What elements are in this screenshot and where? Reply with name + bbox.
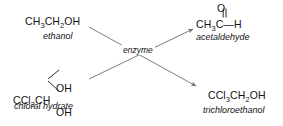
subscript: 3 [40,21,44,30]
bond-dash: — [223,18,234,30]
product-acetaldehyde-structure: O CH3C—H [196,2,254,34]
catalyst-label: enzyme [121,45,155,55]
product-trichloroethanol-formula: CCl3CH2OH [208,89,266,101]
acetaldehyde-carbonyl-oxygen: O [217,2,225,14]
acetaldehyde-base-formula: CH3C—H [196,18,242,30]
subscript: 3 [226,95,230,104]
product-acetaldehyde-name: acetaldehyde [196,32,250,43]
acetaldehyde-structure-group: O CH3C—H [196,2,254,30]
reactant-ethanol-name: ethanol [43,31,73,42]
chloral-hydroxyl-top: OH [56,82,72,94]
bond-to-top-hydroxyl [48,70,59,79]
subscript: 2 [245,95,249,104]
reactant-ethanol-formula: CH3CH2OH [25,15,80,27]
product-trichloroethanol-name: trichloroethanol [203,105,265,116]
subscript: 2 [60,21,64,30]
arrow-ethanol-down [89,27,196,86]
reaction-scheme: CH3CH2OH ethanol CCl3CH OH OH chloral hy… [0,0,283,126]
reactant-chloral-hydrate-name: chloral hydrate [14,101,73,112]
